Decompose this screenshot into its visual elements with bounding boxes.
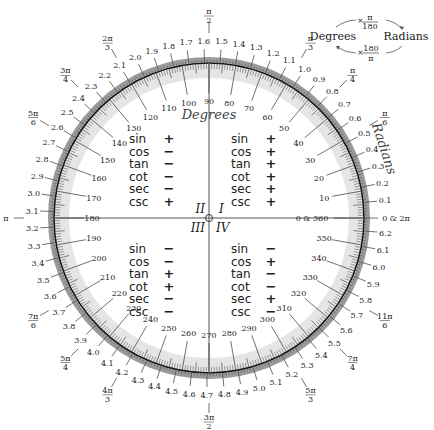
degree-label: 90	[204, 97, 214, 106]
arrow-to-degrees	[337, 47, 356, 53]
function-sign: −	[164, 304, 175, 319]
sign-table-quadrant-ii: sin+cos−tan−cot−sec−csc+	[129, 131, 174, 209]
pi-label: 2π3	[102, 34, 112, 52]
degree-label: 350	[317, 234, 332, 243]
degree-label: 150	[100, 156, 115, 165]
quadrant-sign-tables: Isin+cos+tan+cot+sec+csc+IIsin+cos−tan−c…	[129, 131, 276, 319]
radian-label: 0 & 2π	[382, 214, 410, 223]
radian-label: 5.6	[340, 326, 353, 335]
radian-label: 5.8	[359, 296, 372, 305]
radian-label: 2.0	[129, 53, 142, 62]
radian-label: 3.7	[53, 308, 66, 317]
svg-text:π: π	[206, 7, 211, 16]
svg-text:π: π	[382, 109, 387, 118]
radian-label: 2.7	[43, 138, 56, 147]
radian-label: 6.2	[379, 229, 392, 238]
degree-label: 260	[181, 329, 196, 338]
svg-text:11π: 11π	[377, 312, 392, 321]
svg-text:2: 2	[206, 16, 211, 25]
svg-text:3π: 3π	[60, 66, 70, 75]
radian-label: 2.9	[31, 172, 44, 181]
degree-label: 190	[86, 234, 101, 243]
degree-label: 340	[311, 254, 326, 263]
radian-label: 5.9	[367, 280, 380, 289]
degree-label: 220	[112, 289, 127, 298]
function-name: csc	[231, 305, 250, 319]
function-name: csc	[129, 195, 148, 209]
radian-label: 4.5	[165, 387, 178, 396]
radian-label: 3.9	[74, 336, 87, 345]
radian-label: 3.3	[28, 242, 41, 251]
function-sign: −	[266, 304, 277, 319]
pi-label: 3π4	[60, 66, 70, 84]
svg-text:7π: 7π	[347, 354, 357, 363]
radian-label: 4.0	[87, 348, 100, 357]
svg-text:6: 6	[382, 321, 387, 330]
unit-circle-diagram: 0 & 360102030405060708090100110120130140…	[0, 0, 434, 430]
degree-label: 170	[86, 194, 101, 203]
radian-label: 0.6	[349, 114, 362, 123]
svg-text:5π: 5π	[60, 354, 70, 363]
pi-label: π2	[204, 7, 214, 25]
radian-label: 2.1	[113, 61, 126, 70]
conversion-legend: Degrees Radians × π 180 × 180 π	[310, 13, 429, 63]
radian-label: 2.3	[85, 82, 98, 91]
function-name: csc	[129, 305, 148, 319]
radian-label: 1.6	[197, 37, 210, 46]
radian-label: 4.1	[101, 359, 114, 368]
degree-label: 210	[100, 273, 115, 282]
function-sign: +	[266, 194, 277, 209]
degree-label: 110	[161, 104, 176, 113]
pi-label: 7π6	[28, 312, 38, 330]
degree-label: 120	[143, 113, 158, 122]
degree-label: 280	[222, 329, 237, 338]
radian-label: 3.6	[44, 292, 57, 301]
radian-label: 2.8	[36, 155, 49, 164]
radian-label: 4.9	[236, 388, 249, 397]
svg-text:5π: 5π	[28, 109, 38, 118]
radian-label: 0.1	[379, 196, 392, 205]
degree-label: 30	[305, 156, 315, 165]
radian-label: 1.7	[180, 38, 193, 47]
radian-label: 5.2	[286, 370, 299, 379]
radian-label: 2.2	[98, 71, 111, 80]
degree-label: 160	[91, 174, 106, 183]
radian-label: 5.5	[328, 339, 341, 348]
to-radians-den: 180	[362, 22, 377, 31]
quadrant-label-iv: IV	[215, 221, 231, 235]
degree-label: 180	[84, 214, 99, 223]
svg-text:π: π	[350, 66, 355, 75]
svg-text:2π: 2π	[102, 34, 112, 43]
svg-text:4: 4	[63, 363, 68, 372]
degree-label: 290	[241, 324, 256, 333]
radian-label: 0.9	[313, 75, 326, 84]
pi-label: 4π3	[102, 386, 112, 404]
radian-label: 1.9	[145, 47, 158, 56]
conversion-radians-label: Radians	[384, 30, 429, 43]
svg-text:π: π	[3, 214, 8, 223]
radian-label: 3.8	[63, 322, 76, 331]
degree-label: 330	[303, 273, 318, 282]
degree-label: 270	[201, 331, 216, 340]
svg-text:5π: 5π	[305, 386, 315, 395]
svg-text:3: 3	[308, 395, 313, 404]
radian-label: 1.2	[267, 49, 280, 58]
degree-label: 140	[112, 139, 127, 148]
sign-table-quadrant-iii: sin−cos−tan+cot+sec−csc−	[129, 241, 174, 319]
radian-label: 1.3	[250, 43, 263, 52]
svg-text:4π: 4π	[102, 386, 112, 395]
degree-label: 250	[161, 324, 176, 333]
radian-label: 5.0	[253, 384, 266, 393]
sign-table-quadrant-i: sin+cos+tan+cot+sec+csc+	[231, 131, 276, 209]
sign-table-quadrant-iv: sin−cos+tan−cot−sec+csc−	[231, 241, 276, 319]
degree-label: 50	[279, 124, 289, 133]
degrees-title: Degrees	[181, 107, 237, 122]
radian-label: 3.1	[26, 207, 39, 216]
svg-text:4: 4	[350, 75, 355, 84]
quadrant-label-i: I	[218, 202, 224, 216]
pi-label: 5π4	[60, 354, 70, 372]
svg-text:2: 2	[206, 422, 211, 430]
radian-label: 0.7	[338, 100, 351, 109]
radian-label: 2.4	[72, 94, 85, 103]
radian-label: 0.2	[376, 179, 389, 188]
